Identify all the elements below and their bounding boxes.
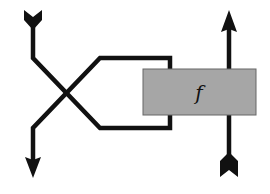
arrow-tail-top-left-icon [24,10,42,30]
arrowhead-down-left-icon [25,157,41,178]
string-diagram: f [0,0,270,194]
arrowhead-up-right-icon [221,10,237,32]
arrow-tail-bottom-right-icon [220,152,238,177]
